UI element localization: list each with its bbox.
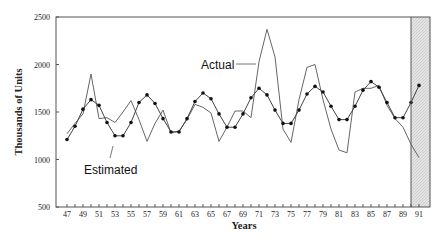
svg-text:1000: 1000 (34, 156, 50, 165)
svg-text:51: 51 (95, 210, 103, 219)
estimated-point (97, 104, 101, 108)
estimated-point (345, 118, 349, 122)
svg-text:2500: 2500 (34, 13, 50, 22)
svg-text:61: 61 (175, 210, 183, 219)
estimated-point (81, 107, 85, 111)
estimated-point (105, 121, 109, 125)
svg-text:55: 55 (127, 210, 135, 219)
estimated-point (353, 105, 357, 109)
estimated-point (177, 130, 181, 134)
svg-text:1500: 1500 (34, 108, 50, 117)
estimated-point (305, 92, 309, 96)
estimated-point (337, 118, 341, 122)
estimated-point (377, 86, 381, 90)
estimated-point (145, 93, 149, 97)
svg-text:79: 79 (319, 210, 327, 219)
estimated-point (89, 98, 93, 102)
estimated-point (225, 125, 229, 129)
estimated-point (257, 86, 261, 90)
estimated-point (369, 80, 373, 84)
svg-text:63: 63 (191, 210, 199, 219)
estimated-point (393, 116, 397, 120)
estimated-point (321, 90, 325, 94)
forecast-shaded-region (411, 17, 430, 207)
svg-text:47: 47 (63, 210, 71, 219)
estimated-point (313, 85, 317, 89)
estimated-point (113, 134, 117, 138)
estimated-point (193, 100, 197, 104)
estimated-point (329, 105, 333, 109)
svg-text:71: 71 (255, 210, 263, 219)
svg-text:91: 91 (415, 210, 423, 219)
estimated-point (385, 101, 389, 105)
estimated-point (65, 138, 69, 142)
svg-text:57: 57 (143, 210, 151, 219)
svg-text:85: 85 (367, 210, 375, 219)
estimated-point (217, 112, 221, 116)
y-axis-title: Thousands of Units (13, 69, 24, 156)
svg-text:500: 500 (38, 203, 50, 212)
svg-text:2000: 2000 (34, 61, 50, 70)
sales-line-chart: 5001000150020002500 47495153555759616365… (0, 0, 448, 239)
svg-text:53: 53 (111, 210, 119, 219)
estimated-leader-line (110, 146, 113, 158)
svg-text:81: 81 (335, 210, 343, 219)
actual-annotation: Actual (201, 58, 234, 72)
estimated-point (185, 117, 189, 121)
estimated-point (273, 108, 277, 112)
estimated-point (281, 122, 285, 126)
estimated-point (233, 125, 237, 129)
plot-frame (56, 17, 430, 207)
estimated-point (265, 93, 269, 97)
svg-text:89: 89 (399, 210, 407, 219)
estimated-point (241, 112, 245, 116)
svg-text:67: 67 (223, 210, 231, 219)
estimated-point (201, 91, 205, 95)
y-axis-ticks: 5001000150020002500 (34, 13, 59, 212)
estimated-point (137, 101, 141, 105)
estimated-point (361, 88, 365, 92)
svg-text:83: 83 (351, 210, 359, 219)
estimated-point (169, 130, 173, 134)
estimated-point (417, 84, 421, 88)
svg-text:59: 59 (159, 210, 167, 219)
estimated-point (129, 121, 133, 125)
estimated-annotation: Estimated (84, 163, 137, 177)
svg-text:65: 65 (207, 210, 215, 219)
estimated-point (209, 97, 213, 101)
estimated-point (297, 108, 301, 112)
x-axis-title: Years (231, 220, 256, 231)
svg-text:77: 77 (303, 210, 311, 219)
svg-text:87: 87 (383, 210, 391, 219)
actual-series-line (67, 29, 419, 157)
estimated-point (73, 124, 77, 128)
svg-text:73: 73 (271, 210, 279, 219)
x-axis-ticks: 4749515355575961636567697173757779818385… (63, 204, 423, 219)
svg-text:49: 49 (79, 210, 87, 219)
estimated-point (121, 134, 125, 138)
svg-text:75: 75 (287, 210, 295, 219)
estimated-point (153, 102, 157, 106)
estimated-point (289, 122, 293, 126)
estimated-point (249, 96, 253, 100)
estimated-point (401, 116, 405, 120)
svg-text:69: 69 (239, 210, 247, 219)
estimated-point (161, 117, 165, 121)
